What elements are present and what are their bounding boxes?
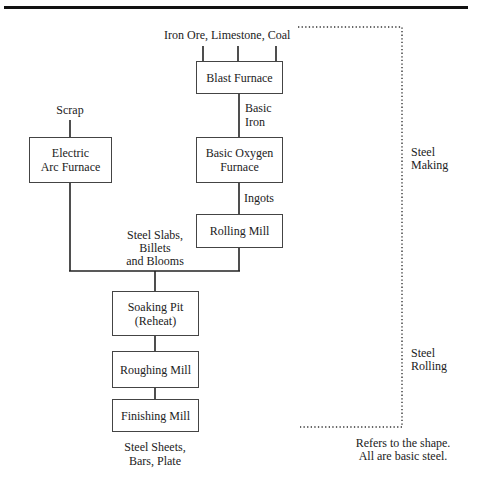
stage-rolling-label-2: Rolling <box>411 360 447 373</box>
scrap-label: Scrap <box>56 104 83 117</box>
output-label-2: Bars, Plate <box>129 455 181 468</box>
stage-bracket <box>298 27 402 427</box>
basic-oxygen-furnace-text: Basic Oxygen Furnace <box>206 146 274 174</box>
roughing-mill-box: Roughing Mill <box>112 351 199 388</box>
basic-iron-label-1: Basic <box>245 102 272 115</box>
finishing-mill-text: Finishing Mill <box>121 409 190 423</box>
slabs-label-3: and Blooms <box>126 255 184 268</box>
rolling-mill-text: Rolling Mill <box>210 224 270 238</box>
blast-furnace-inputs-label: Iron Ore, Limestone, Coal <box>164 29 290 42</box>
electric-arc-furnace-text: Electric Arc Furnace <box>41 146 101 174</box>
basic-iron-label-2: Iron <box>245 116 265 129</box>
ingots-label: Ingots <box>244 192 274 205</box>
soaking-pit-box: Soaking Pit (Reheat) <box>112 291 199 336</box>
blast-furnace-box: Blast Furnace <box>196 61 283 94</box>
blast-furnace-text: Blast Furnace <box>206 71 272 85</box>
soaking-pit-text: Soaking Pit (Reheat) <box>128 300 184 328</box>
finishing-mill-box: Finishing Mill <box>112 399 199 432</box>
rolling-mill-box: Rolling Mill <box>196 214 283 248</box>
basic-oxygen-furnace-box: Basic Oxygen Furnace <box>196 137 283 183</box>
output-label-1: Steel Sheets, <box>124 441 185 454</box>
stage-making-label-2: Making <box>411 159 448 172</box>
electric-arc-furnace-box: Electric Arc Furnace <box>29 137 112 183</box>
note-label-2: All are basic steel. <box>359 450 448 463</box>
roughing-mill-text: Roughing Mill <box>120 363 191 377</box>
